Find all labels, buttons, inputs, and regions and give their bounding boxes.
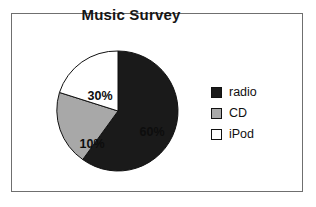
- pie-label-cd: 10%: [79, 137, 104, 151]
- pie-label-ipod: 30%: [87, 89, 112, 103]
- legend-label-ipod: iPod: [229, 128, 254, 141]
- chart-legend: radio CD iPod: [211, 82, 295, 145]
- pie-label-radio: 60%: [139, 125, 164, 139]
- legend-item-cd[interactable]: CD: [211, 103, 295, 123]
- legend-item-ipod[interactable]: iPod: [211, 124, 295, 144]
- legend-item-radio[interactable]: radio: [211, 82, 295, 102]
- legend-label-cd: CD: [229, 107, 247, 120]
- legend-label-radio: radio: [229, 86, 257, 99]
- pie-plot-area: 60% 10% 30%: [36, 20, 212, 175]
- legend-swatch-ipod-icon: [211, 129, 222, 140]
- legend-swatch-radio-icon: [211, 87, 222, 98]
- pie-chart-figure: Music Survey 60% 10% 30% radio CD iPod: [0, 0, 316, 207]
- pie-svg: 60% 10% 30%: [36, 20, 212, 175]
- legend-swatch-cd-icon: [211, 108, 222, 119]
